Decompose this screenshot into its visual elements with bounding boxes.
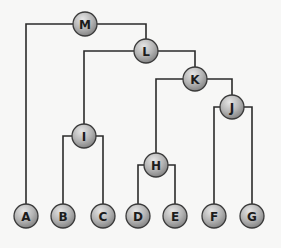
node-c: C (91, 204, 115, 228)
node-j: J (220, 95, 244, 119)
node-label: H (151, 159, 161, 173)
node-e: E (163, 204, 187, 228)
node-label: A (21, 210, 31, 224)
node-label: B (58, 210, 67, 224)
node-m: M (73, 12, 97, 36)
node-k: K (183, 67, 207, 91)
node-label: M (79, 18, 91, 32)
node-label: E (171, 210, 179, 224)
nodes: MLKJIHABCDEFG (14, 12, 264, 228)
node-i: I (72, 124, 96, 148)
node-label: F (210, 210, 218, 224)
tree-diagram: MLKJIHABCDEFG (0, 0, 281, 248)
edge-l-i (84, 51, 146, 136)
node-d: D (126, 204, 150, 228)
edge-j-f (214, 107, 232, 216)
node-g: G (240, 204, 264, 228)
node-f: F (202, 204, 226, 228)
edge-k-h (156, 79, 195, 165)
edge-j-g (232, 107, 252, 216)
node-l: L (134, 39, 158, 63)
node-label: C (99, 210, 108, 224)
node-label: L (142, 45, 150, 59)
node-label: K (190, 73, 200, 87)
node-label: G (247, 210, 257, 224)
edge-m-a (26, 24, 85, 216)
node-label: D (133, 210, 143, 224)
node-b: B (51, 204, 75, 228)
node-h: H (144, 153, 168, 177)
node-a: A (14, 204, 38, 228)
node-label: J (229, 101, 234, 115)
tree-canvas: MLKJIHABCDEFG (0, 0, 281, 248)
node-label: I (82, 130, 86, 144)
